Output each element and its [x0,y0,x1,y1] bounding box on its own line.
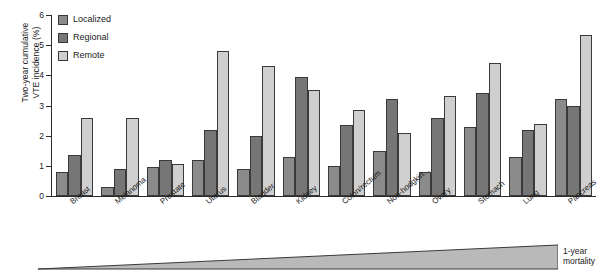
mortality-label: 1-year mortality [563,246,595,266]
y-tick-mark [46,75,51,76]
bar-ovary-regional [431,118,443,196]
bar-group [97,15,142,196]
bar-breast-localized [56,172,68,196]
bar-pancreas-regional [567,106,579,197]
y-tick-label: 2 [33,132,44,141]
bar-group [505,15,550,196]
bar-lung-localized [509,157,521,196]
bar-kidney-regional [295,77,307,196]
bar-kidney-remote [308,90,320,196]
bar-bladder-localized [237,169,249,196]
plot-area [52,15,596,196]
y-tick-label: 3 [33,102,44,111]
x-axis-line [51,196,596,197]
bar-group [143,15,188,196]
bar-uterus-localized [192,160,204,196]
y-tick-label: 1 [33,162,44,171]
y-tick-mark [46,15,51,16]
y-tick-mark [46,45,51,46]
y-tick-label: 0 [33,192,44,201]
bar-lung-remote [534,124,546,196]
chart-root: Two-year cumulative VTE incidence (%) 01… [0,0,601,279]
bar-bladder-regional [250,136,262,196]
bar-pancreas-localized [555,99,567,196]
bar-group [188,15,233,196]
bar-breast-remote [81,118,93,196]
bar-group [52,15,97,196]
y-axis-title: Two-year cumulative VTE incidence (%) [20,0,41,138]
y-tick-mark [46,196,51,197]
y-tick-mark [46,136,51,137]
y-tick-label: 5 [33,41,44,50]
bar-kidney-localized [283,157,295,196]
mortality-wedge [38,243,558,271]
y-tick-mark [46,166,51,167]
y-tick-mark [46,106,51,107]
bar-colon-rectum-regional [340,125,352,196]
bar-colon-rectum-localized [328,166,340,196]
bar-stomach-localized [464,127,476,196]
bar-ovary-remote [444,96,456,196]
bar-non-hodgkin-regional [386,99,398,196]
y-tick-label: 4 [33,71,44,80]
bar-group [460,15,505,196]
bar-uterus-remote [217,51,229,196]
bar-group [279,15,324,196]
bar-pancreas-remote [580,35,592,196]
wedge-shape [38,243,558,271]
bar-stomach-regional [476,93,488,196]
bar-lung-regional [522,130,534,196]
bar-prostate-localized [147,167,159,196]
bar-group [324,15,369,196]
bar-bladder-remote [262,66,274,196]
bar-stomach-remote [489,63,501,196]
y-tick-label: 6 [33,11,44,20]
bar-group [551,15,596,196]
bar-group [233,15,278,196]
bar-melanoma-localized [101,187,113,196]
bar-uterus-regional [204,130,216,196]
